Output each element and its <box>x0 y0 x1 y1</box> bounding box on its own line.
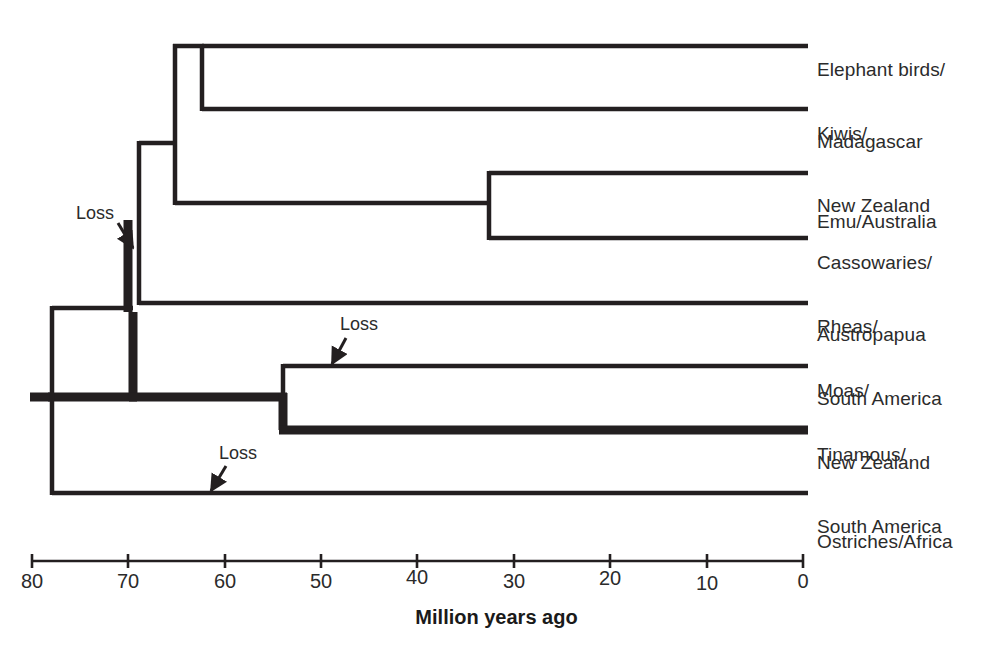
loss-label-1: Loss <box>76 203 114 224</box>
axis-tick-label-50: 50 <box>296 570 346 593</box>
axis-title: Million years ago <box>0 606 993 629</box>
axis-tick-label-60: 60 <box>200 570 250 593</box>
axis-tick-label-80: 80 <box>7 570 57 593</box>
bold-lineage <box>30 220 808 430</box>
tip-label-ostriches: Ostriches/Africa <box>817 482 953 602</box>
loss-label-2: Loss <box>340 314 378 335</box>
tip-label-line-1: Tinamous/ <box>817 443 942 467</box>
tip-label-line-1: Ostriches/Africa <box>817 530 953 554</box>
phylogenetic-tree-figure: Elephant birds/ Madagascar Kiwis/ New Ze… <box>0 0 993 652</box>
loss-arrow-2 <box>332 338 346 364</box>
axis-tick-label-0: 0 <box>778 570 828 593</box>
axis-tick-label-20: 20 <box>585 567 635 590</box>
axis-tick-label-40: 40 <box>392 566 442 589</box>
axis-tick-label-30: 30 <box>489 570 539 593</box>
tree-branches <box>30 44 808 568</box>
loss-label-3: Loss <box>219 443 257 464</box>
tip-label-line-1: Kiwis/ <box>817 122 930 146</box>
loss-arrow-3 <box>211 466 226 491</box>
axis-tick-label-10: 10 <box>682 572 732 595</box>
axis-tick-label-70: 70 <box>103 570 153 593</box>
